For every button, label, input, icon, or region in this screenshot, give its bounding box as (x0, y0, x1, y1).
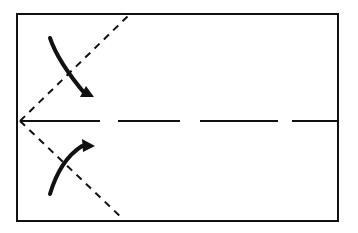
folding-diagram: Paper folding step: fold corners to cent… (0, 0, 358, 233)
lower-fold-line (20, 121, 123, 219)
upper-fold-line (20, 14, 130, 121)
upper-fold-arrow-icon (50, 38, 94, 97)
diagram-svg (0, 0, 358, 233)
paper-outline (17, 14, 338, 221)
